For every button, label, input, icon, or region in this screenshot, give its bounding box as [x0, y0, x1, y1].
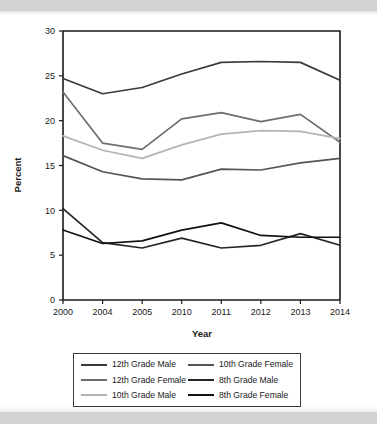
- data-series-lines: [63, 61, 340, 248]
- legend-line-swatch-icon: [188, 364, 214, 366]
- x-tick-label: 2005: [132, 307, 152, 317]
- legend-item: 10th Grade Female: [188, 360, 295, 369]
- legend-item-label: 12th Grade Female: [112, 376, 186, 385]
- legend-item: 10th Grade Male: [81, 391, 188, 400]
- legend-line-swatch-icon: [81, 364, 107, 366]
- y-axis-tick-labels: 051015202530: [45, 26, 55, 305]
- legend-item-label: 12th Grade Male: [112, 360, 176, 369]
- legend-item-label: 10th Grade Female: [219, 360, 293, 369]
- y-tick-label: 30: [45, 26, 55, 36]
- series-line: [63, 131, 340, 159]
- x-tick-label: 2004: [93, 307, 113, 317]
- axis-ticks: [59, 31, 340, 304]
- series-line: [63, 223, 340, 244]
- x-tick-label: 2000: [53, 307, 73, 317]
- legend-item-label: 8th Grade Male: [219, 376, 278, 385]
- series-line: [63, 92, 340, 149]
- x-tick-label: 2013: [290, 307, 310, 317]
- series-line: [63, 156, 340, 180]
- x-tick-label: 2010: [172, 307, 192, 317]
- y-tick-label: 5: [50, 250, 55, 260]
- legend-item: 8th Grade Male: [188, 376, 295, 385]
- y-tick-label: 10: [45, 206, 55, 216]
- chart-legend: 12th Grade Male 10th Grade Female 12th G…: [73, 353, 301, 407]
- legend-item-label: 10th Grade Male: [112, 391, 176, 400]
- x-axis-title: Year: [192, 328, 212, 339]
- y-axis-title: Percent: [12, 157, 23, 193]
- legend-item: 12th Grade Female: [81, 376, 188, 385]
- x-axis-tick-labels: 20002004200520102011201220132014: [53, 307, 350, 317]
- x-tick-label: 2014: [330, 307, 350, 317]
- plot-area-wrapper: 051015202530 200020042005201020112012201…: [0, 15, 377, 407]
- legend-item-label: 8th Grade Female: [219, 391, 288, 400]
- legend-line-swatch-icon: [188, 394, 214, 396]
- bottom-background-band: [0, 412, 377, 424]
- y-tick-label: 25: [45, 71, 55, 81]
- y-tick-label: 20: [45, 116, 55, 126]
- legend-grid: 12th Grade Male 10th Grade Female 12th G…: [74, 354, 300, 406]
- series-line: [63, 61, 340, 93]
- x-tick-label: 2012: [251, 307, 271, 317]
- y-tick-label: 15: [45, 161, 55, 171]
- legend-line-swatch-icon: [81, 379, 107, 381]
- top-background-band: [0, 0, 377, 11]
- chart-figure: 051015202530 200020042005201020112012201…: [0, 0, 377, 424]
- y-tick-label: 0: [50, 295, 55, 305]
- axes: [63, 31, 340, 300]
- legend-item: 8th Grade Female: [188, 391, 295, 400]
- legend-item: 12th Grade Male: [81, 360, 188, 369]
- legend-line-swatch-icon: [188, 379, 214, 381]
- x-tick-label: 2011: [212, 307, 231, 317]
- line-chart-svg: 051015202530 200020042005201020112012201…: [0, 15, 377, 345]
- series-line: [63, 209, 340, 248]
- legend-line-swatch-icon: [81, 394, 107, 396]
